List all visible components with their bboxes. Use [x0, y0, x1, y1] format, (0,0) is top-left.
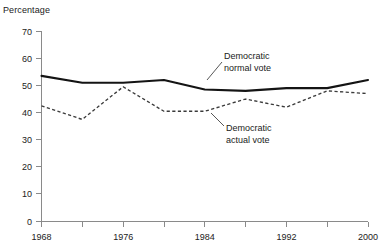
x-tick-label-1976: 1976: [113, 232, 133, 242]
y-tick-label-70: 70: [22, 27, 32, 37]
leader-line-actual-vote: [211, 113, 224, 126]
x-tick-label-1984: 1984: [195, 232, 215, 242]
annotation-normal-vote-line2: normal vote: [224, 63, 271, 73]
leader-line-normal-vote: [207, 62, 222, 80]
x-tick-label-1992: 1992: [276, 232, 296, 242]
chart-plot-area: 70 60 50 40 30 20 10 0 1968 1976 1984 19…: [0, 0, 386, 248]
series-line-democratic-normal-vote: [42, 76, 369, 91]
y-tick-label-10: 10: [22, 189, 32, 199]
x-tick-label-2000: 2000: [358, 232, 378, 242]
annotation-actual-vote-line2: actual vote: [226, 135, 270, 145]
chart-container: Percentage 70 60 50 40 30 20 10 0: [0, 0, 386, 248]
annotation-actual-vote-line1: Democratic: [226, 123, 272, 133]
y-tick-label-50: 50: [22, 81, 32, 91]
y-tick-label-60: 60: [22, 54, 32, 64]
y-tick-label-30: 30: [22, 135, 32, 145]
y-tick-label-20: 20: [22, 162, 32, 172]
y-tick-label-0: 0: [27, 217, 32, 227]
series-line-democratic-actual-vote: [42, 87, 369, 120]
y-tick-marks: [36, 32, 42, 222]
annotation-normal-vote-line1: Democratic: [224, 51, 270, 61]
x-tick-marks: [42, 222, 369, 228]
x-tick-label-1968: 1968: [31, 232, 51, 242]
y-tick-label-40: 40: [22, 108, 32, 118]
